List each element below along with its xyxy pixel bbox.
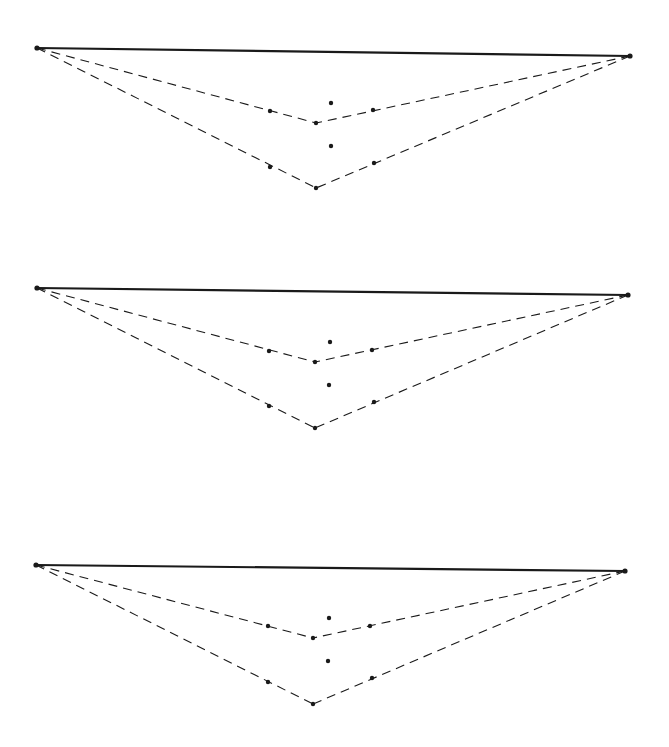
right-endpoint xyxy=(625,292,630,297)
lower-vertex xyxy=(311,702,315,706)
point xyxy=(266,680,270,684)
point xyxy=(368,624,372,628)
point xyxy=(372,161,376,165)
point xyxy=(329,144,333,148)
panel-3 xyxy=(33,562,627,706)
point xyxy=(372,400,376,404)
point xyxy=(326,659,330,663)
point xyxy=(327,383,331,387)
upper-right-dashed-line xyxy=(315,295,628,362)
lower-right-dashed-line xyxy=(313,571,625,704)
lower-left-dashed-line xyxy=(36,565,313,704)
upper-left-dashed-line xyxy=(37,288,315,362)
panel-2 xyxy=(34,285,630,430)
lower-right-dashed-line xyxy=(316,56,630,188)
point xyxy=(328,340,332,344)
point xyxy=(267,404,271,408)
point xyxy=(371,108,375,112)
upper-vertex xyxy=(314,121,318,125)
left-endpoint xyxy=(34,45,39,50)
upper-left-dashed-line xyxy=(36,565,313,638)
base-line xyxy=(36,565,625,571)
left-endpoint xyxy=(33,562,38,567)
point xyxy=(370,676,374,680)
base-line xyxy=(37,48,630,56)
lower-vertex xyxy=(313,426,317,430)
upper-vertex xyxy=(313,360,317,364)
point xyxy=(266,624,270,628)
point xyxy=(267,349,271,353)
upper-right-dashed-line xyxy=(316,56,630,123)
point xyxy=(329,101,333,105)
point xyxy=(268,165,272,169)
point xyxy=(370,348,374,352)
upper-right-dashed-line xyxy=(313,571,625,638)
lower-vertex xyxy=(314,186,318,190)
point xyxy=(268,109,272,113)
diagram-canvas xyxy=(0,0,669,747)
lower-right-dashed-line xyxy=(315,295,628,428)
right-endpoint xyxy=(622,568,627,573)
lower-left-dashed-line xyxy=(37,288,315,428)
panel-1 xyxy=(34,45,632,190)
upper-left-dashed-line xyxy=(37,48,316,123)
lower-left-dashed-line xyxy=(37,48,316,188)
left-endpoint xyxy=(34,285,39,290)
upper-vertex xyxy=(311,636,315,640)
point xyxy=(327,616,331,620)
base-line xyxy=(37,288,628,295)
right-endpoint xyxy=(627,53,632,58)
